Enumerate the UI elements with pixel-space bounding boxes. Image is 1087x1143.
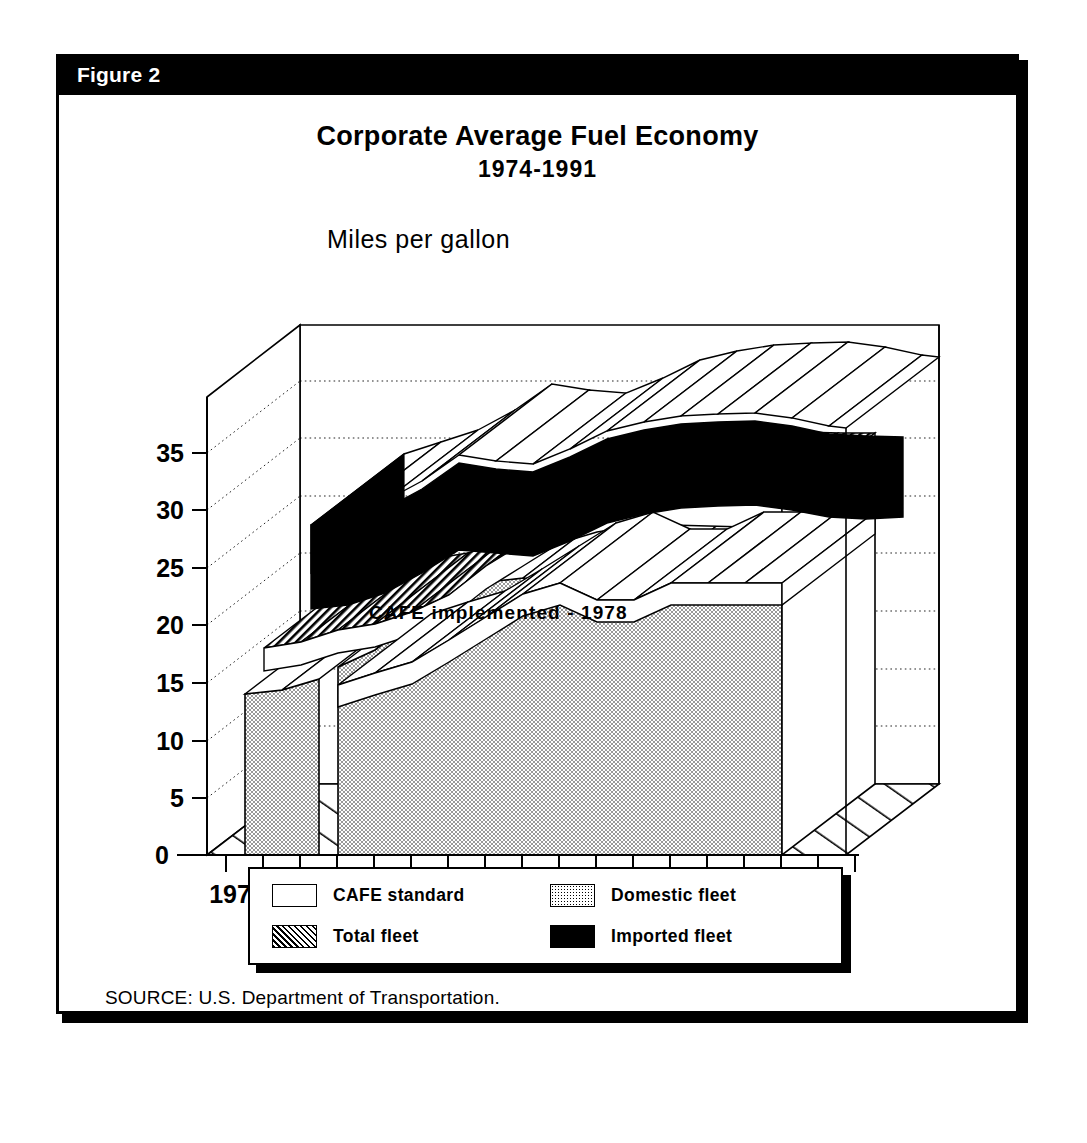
legend-swatch-cafe-standard	[272, 884, 317, 907]
legend-label-domestic-fleet: Domestic fleet	[611, 885, 736, 906]
legend-swatch-imported-fleet	[550, 925, 595, 948]
legend-label-total-fleet: Total fleet	[333, 926, 419, 947]
y-tick-15: 15	[156, 669, 184, 697]
frame-shadow-bottom	[62, 1014, 1025, 1023]
cafe-implemented-annotation: CAFE implemented - 1978	[369, 602, 628, 623]
y-tick-30: 30	[156, 496, 184, 524]
legend-label-imported-fleet: Imported fleet	[611, 926, 732, 947]
legend-swatch-total-fleet	[272, 925, 317, 948]
legend-item-total-fleet: Total fleet	[272, 925, 419, 948]
legend-item-cafe-standard: CAFE standard	[272, 884, 465, 907]
legend-label-cafe-standard: CAFE standard	[333, 885, 465, 906]
y-tick-5: 5	[170, 784, 184, 812]
y-tick-0: 0	[155, 841, 169, 869]
chart-legend: CAFE standard Domestic fleet Total fleet…	[248, 867, 843, 965]
y-tick-20: 20	[156, 611, 184, 639]
legend-item-imported-fleet: Imported fleet	[550, 925, 732, 948]
figure-header-bar: Figure 2	[59, 57, 1016, 95]
legend-item-domestic-fleet: Domestic fleet	[550, 884, 736, 907]
y-tick-35: 35	[156, 439, 184, 467]
figure-frame: Figure 2 Corporate Average Fuel Economy …	[56, 54, 1019, 1014]
y-tick-10: 10	[156, 727, 184, 755]
source-note: SOURCE: U.S. Department of Transportatio…	[105, 987, 500, 1009]
chart-title: Corporate Average Fuel Economy	[59, 121, 1016, 152]
cafe-area-chart: 35 30 25 20 15 10 5 0	[59, 207, 1022, 907]
y-axis: 35 30 25 20 15 10 5 0	[155, 397, 207, 869]
chart-subtitle: 1974-1991	[59, 156, 1016, 183]
figure-page: Figure 2 Corporate Average Fuel Economy …	[0, 0, 1087, 1143]
y-tick-25: 25	[156, 554, 184, 582]
figure-number-label: Figure 2	[77, 63, 160, 87]
legend-swatch-domestic-fleet	[550, 884, 595, 907]
